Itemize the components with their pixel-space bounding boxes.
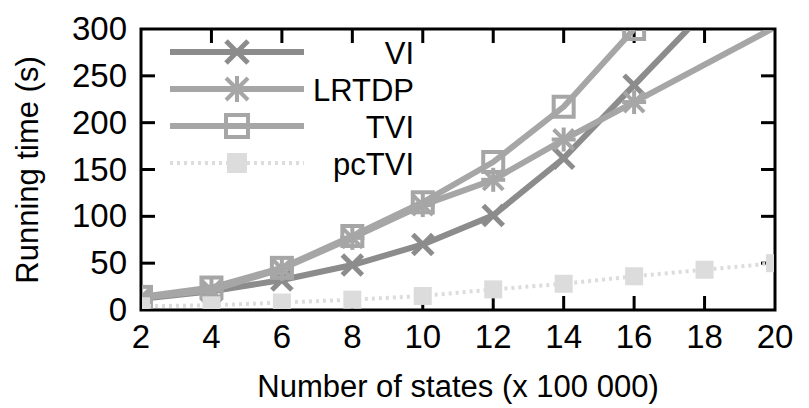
legend-entry-vi: VI <box>170 36 414 71</box>
data-point-marker <box>344 292 360 308</box>
x-tick-label: 6 <box>273 318 291 355</box>
data-point-marker <box>556 276 572 292</box>
y-tick-label: 300 <box>72 10 127 47</box>
chart-figure: 050100150200250300 2468101214161820 Runn… <box>0 0 809 408</box>
x-tick-label: 14 <box>545 318 582 355</box>
y-axis-tick-labels: 050100150200250300 <box>72 10 127 328</box>
x-tick-label: 2 <box>132 318 150 355</box>
x-tick-label: 16 <box>616 318 653 355</box>
data-point-marker <box>224 76 250 102</box>
data-point-marker <box>228 154 246 172</box>
x-axis-tick-labels: 2468101214161820 <box>132 318 794 355</box>
data-point-marker <box>485 281 501 297</box>
data-point-marker <box>622 90 646 114</box>
y-tick-label: 50 <box>90 244 127 281</box>
x-tick-label: 10 <box>404 318 441 355</box>
y-tick-label: 0 <box>109 291 127 328</box>
y-axis-title: Running time (s) <box>10 56 45 283</box>
legend-entry-pctvi: pcTVI <box>170 147 414 182</box>
x-axis-title: Number of states (x 100 000) <box>257 369 658 404</box>
y-tick-label: 200 <box>72 104 127 141</box>
legend-label-lrtdp: LRTDP <box>313 73 414 108</box>
data-point-marker <box>415 288 431 304</box>
x-tick-label: 20 <box>757 318 794 355</box>
running-time-line-chart: 050100150200250300 2468101214161820 Runn… <box>0 0 809 408</box>
x-tick-label: 4 <box>202 318 220 355</box>
y-tick-label: 100 <box>72 197 127 234</box>
legend-entry-tvi: TVI <box>170 110 414 145</box>
legend-label-vi: VI <box>385 36 414 71</box>
x-tick-label: 18 <box>686 318 723 355</box>
x-tick-label: 12 <box>475 318 512 355</box>
y-tick-label: 250 <box>72 57 127 94</box>
data-point-marker <box>274 295 290 311</box>
legend-label-tvi: TVI <box>366 110 414 145</box>
y-tick-label: 150 <box>72 151 127 188</box>
legend-label-pctvi: pcTVI <box>333 147 414 182</box>
series-lrtdp <box>129 29 771 310</box>
chart-legend: VILRTDPTVIpcTVI <box>170 36 414 182</box>
data-point-marker <box>552 128 576 152</box>
data-point-marker <box>626 268 642 284</box>
data-point-marker <box>697 262 713 278</box>
legend-entry-lrtdp: LRTDP <box>170 73 414 108</box>
x-tick-label: 8 <box>343 318 361 355</box>
